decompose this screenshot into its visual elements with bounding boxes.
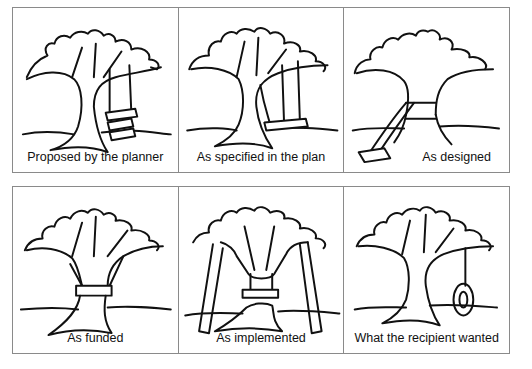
panel-caption: As designed — [344, 150, 509, 164]
panel-as-implemented: As implemented — [179, 187, 345, 353]
top-row: Proposed by the planner As specified in … — [12, 7, 510, 173]
tree-stacked-swing-illustration — [13, 8, 178, 172]
panel-as-designed: As designed — [344, 8, 509, 172]
panel-proposed-by-planner: Proposed by the planner — [13, 8, 179, 172]
panel-caption: Proposed by the planner — [13, 150, 178, 164]
panel-caption: As funded — [13, 331, 178, 345]
panel-caption: What the recipient wanted — [344, 331, 509, 345]
panel-as-funded: As funded — [13, 187, 179, 353]
tree-tire-swing-illustration — [344, 187, 509, 353]
panel-caption: As implemented — [179, 331, 344, 345]
tree-board-around-trunk-illustration — [13, 187, 178, 353]
panel-what-recipient-wanted: What the recipient wanted — [344, 187, 509, 353]
tree-propped-cut-trunk-illustration — [179, 187, 344, 353]
bottom-row: As funded As implemented What the recipi… — [12, 186, 510, 354]
panel-as-specified: As specified in the plan — [179, 8, 345, 172]
tree-swing-through-trunk-illustration — [179, 8, 344, 172]
tree-swing-on-ground-illustration — [344, 8, 509, 172]
panel-caption: As specified in the plan — [179, 150, 344, 164]
